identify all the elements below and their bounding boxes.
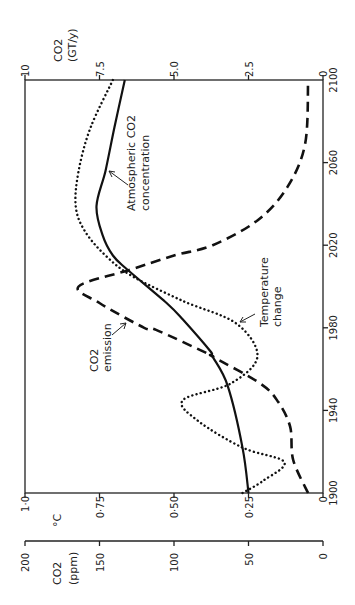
svg-text:emission: emission: [101, 323, 114, 372]
arrow-icon: [240, 314, 255, 322]
emission-axis: 107.55.02.50: [20, 61, 329, 80]
value-tick-label: 2.5: [244, 61, 255, 77]
year-tick-label: 1940: [328, 398, 339, 423]
emission-axis-unit: (GT/y): [66, 28, 79, 62]
value-tick-label: 150: [95, 553, 106, 572]
value-tick-label: 0·50: [169, 496, 180, 518]
arrow-icon: [112, 323, 126, 335]
year-tick-label: 2060: [328, 150, 339, 175]
year-tick-label: 1900: [328, 480, 339, 505]
concentration-axis-title: CO2: [51, 562, 64, 585]
value-tick-label: 50: [244, 553, 255, 566]
annotation-co2-emission: CO2 emission: [88, 323, 126, 372]
value-tick-label: 5.0: [169, 61, 180, 77]
year-tick-label: 2020: [328, 232, 339, 257]
svg-text:change: change: [271, 286, 284, 327]
annotation-temperature: Temperature change: [240, 257, 284, 328]
year-tick-label: 1980: [328, 315, 339, 340]
atmospheric-co2-curve: [96, 80, 248, 493]
svg-text:concentration: concentration: [139, 135, 152, 211]
emission-axis-title: CO2: [52, 39, 65, 62]
svg-text:Atmospheric CO2: Atmospheric CO2: [125, 115, 138, 211]
annotation-atmospheric-co2: Atmospheric CO2 concentration: [109, 115, 152, 211]
year-axis: 190019401980202020602100: [323, 67, 339, 505]
chart: 190019401980202020602100 107.55.02.50 1·…: [0, 0, 355, 605]
svg-text:CO2: CO2: [88, 349, 101, 372]
plot-frame: [25, 80, 323, 493]
temperature-axis: 1·00·750·500·250: [20, 493, 329, 518]
year-tick-label: 2100: [328, 67, 339, 92]
temperature-change-curve: [75, 80, 284, 493]
value-tick-label: 0·75: [95, 496, 106, 518]
value-tick-label: 200: [20, 553, 31, 572]
value-tick-label: 0: [318, 553, 329, 559]
value-tick-label: 1·0: [20, 496, 31, 512]
value-tick-label: 7.5: [95, 61, 106, 77]
concentration-axis-unit: (ppm): [67, 552, 80, 585]
value-tick-label: 0: [318, 71, 329, 77]
value-tick-label: 0: [318, 496, 329, 502]
svg-text:Temperature: Temperature: [258, 257, 271, 328]
value-tick-label: 100: [169, 553, 180, 572]
value-tick-label: 10: [20, 64, 31, 77]
temperature-axis-title: °C: [51, 514, 64, 528]
value-tick-label: 0·25: [244, 496, 255, 518]
